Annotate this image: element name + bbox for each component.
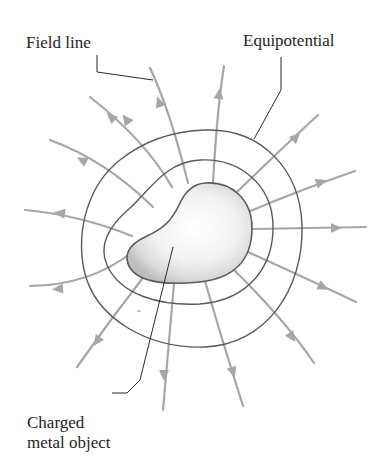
field-line — [236, 115, 318, 193]
field-line — [248, 252, 356, 302]
field-line — [252, 227, 366, 229]
charged-object-label-line2: metal object — [27, 433, 111, 453]
field-line — [77, 275, 145, 367]
equipotential-label: Equipotential — [243, 31, 335, 51]
field-line — [150, 68, 188, 183]
arrow-icon — [159, 370, 169, 381]
charged-metal-object — [127, 183, 252, 283]
charged-object-label-line1: Charged — [27, 413, 84, 433]
field-line-leader — [97, 55, 153, 80]
field-line — [50, 140, 153, 207]
field-diagram — [0, 0, 388, 457]
field-line — [90, 97, 172, 187]
field-line — [234, 270, 314, 363]
field-line — [213, 66, 224, 183]
equipotential-leader — [254, 57, 281, 139]
arrow-icon — [214, 88, 225, 100]
field-line — [30, 253, 131, 286]
field-line-label: Field line — [26, 33, 91, 53]
arrow-icon — [316, 280, 330, 294]
arrow-icon — [103, 109, 118, 124]
arrow-icon — [331, 223, 342, 233]
arrow-icon — [285, 330, 300, 345]
